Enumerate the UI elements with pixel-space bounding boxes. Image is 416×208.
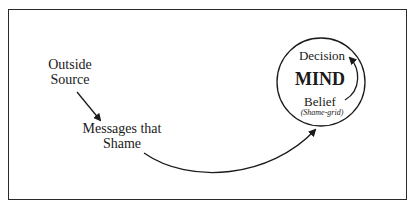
shame-grid-note: (Shame-grid) [282, 108, 362, 117]
arrow-outside-to-messages [77, 92, 100, 120]
outside-line2: Source [40, 72, 100, 87]
messages-line2: Shame [62, 136, 182, 151]
outside-source-label: Outside Source [40, 57, 100, 87]
connector-arrows [0, 0, 416, 208]
messages-line1: Messages that [62, 121, 182, 136]
belief-label: Belief [290, 95, 350, 108]
decision-label: Decision [292, 48, 352, 63]
outside-line1: Outside [40, 57, 100, 72]
messages-label: Messages that Shame [62, 121, 182, 151]
mind-title: MIND [290, 72, 350, 87]
